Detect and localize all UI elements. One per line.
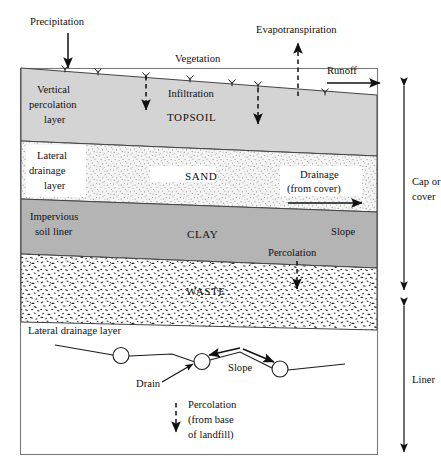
drain-circle-2 — [194, 354, 210, 370]
label-impervious-line2: soil liner — [35, 226, 73, 237]
label-vertical-percolation-line1: Vertical — [37, 84, 70, 95]
landfill-cross-section-diagram: Precipitation Vegetation Evapotranspirat… — [0, 0, 441, 473]
figure-canvas: Precipitation Vegetation Evapotranspirat… — [0, 0, 441, 473]
layer-label-topsoil: TOPSOIL — [167, 111, 216, 123]
layer-label-sand: SAND — [185, 170, 217, 182]
label-drainage-line1: Drainage — [300, 169, 339, 180]
layer-label-waste: WASTE — [186, 285, 226, 297]
label-precipitation: Precipitation — [30, 16, 85, 27]
drain-circle-3 — [272, 361, 288, 377]
label-liner: Liner — [412, 374, 435, 385]
label-vegetation: Vegetation — [175, 53, 221, 64]
drain-detail — [55, 345, 345, 382]
label-impervious-line1: Impervious — [30, 211, 78, 222]
label-evapotranspiration: Evapotranspiration — [256, 24, 337, 35]
label-drainage-line2: (from cover) — [287, 183, 341, 195]
drain-pointer-arrow — [162, 364, 193, 382]
label-percolation-base-line1: Percolation — [188, 399, 237, 410]
label-slope-detail: Slope — [228, 362, 252, 373]
label-vertical-percolation-line3: layer — [44, 114, 66, 125]
label-runoff: Runoff — [327, 65, 357, 76]
label-lateral-drainage-line2: drainage — [29, 165, 66, 176]
label-lateral-drainage-line3: layer — [44, 180, 66, 191]
slope-arrow-left — [209, 348, 240, 355]
drain-circle-1 — [113, 348, 129, 364]
label-percolation-base-line2: (from base — [188, 414, 234, 426]
label-drain: Drain — [136, 378, 161, 389]
label-percolation: Percolation — [268, 247, 317, 258]
label-cap-or-cover-line2: cover — [412, 191, 436, 202]
label-lateral-drainage-layer-detail: Lateral drainage layer — [28, 325, 121, 336]
label-vertical-percolation-line2: percolation — [29, 99, 77, 110]
label-percolation-base-line3: of landfill) — [188, 429, 234, 441]
layer-label-clay: CLAY — [187, 228, 218, 240]
label-infiltration: Infiltration — [168, 88, 215, 99]
label-cap-or-cover-line1: Cap or — [412, 176, 441, 187]
label-lateral-drainage-line1: Lateral — [37, 150, 67, 161]
label-slope-cover: Slope — [331, 226, 355, 237]
